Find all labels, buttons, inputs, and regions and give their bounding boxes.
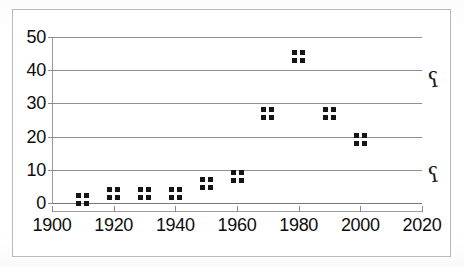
- gridline-y-0: [52, 203, 422, 204]
- y-tick-label-40: 40: [27, 61, 46, 79]
- x-tick-label-1960: 1960: [207, 216, 267, 234]
- data-point-marker: [169, 187, 182, 200]
- x-tick-2000: [360, 206, 361, 212]
- marker-cell: [146, 195, 151, 200]
- y-tick-label-50: 50: [27, 28, 46, 46]
- gridline-y-30: [52, 103, 422, 104]
- y-tick-label-10: 10: [27, 161, 46, 179]
- gridline-y-40: [52, 70, 422, 71]
- marker-cell: [115, 195, 120, 200]
- data-point-marker: [231, 170, 244, 183]
- plot-area: [52, 37, 422, 203]
- data-point-marker: [200, 177, 213, 190]
- gridline-y-50: [52, 37, 422, 38]
- marker-cell: [300, 58, 305, 63]
- screenshot-root: 01020304050 1900192019401960198020002020…: [0, 0, 464, 267]
- data-point-marker: [76, 193, 89, 206]
- x-tick-2020: [422, 206, 423, 212]
- data-point-marker: [323, 107, 336, 120]
- marker-cell: [331, 115, 336, 120]
- data-point-marker: [138, 187, 151, 200]
- data-point-marker: [292, 50, 305, 63]
- marker-cell: [239, 178, 244, 183]
- y-tick-label-20: 20: [27, 128, 46, 146]
- y-tick-30: [48, 103, 53, 104]
- y-tick-0: [48, 203, 53, 204]
- x-tick-1940: [175, 206, 176, 212]
- marker-cell: [269, 115, 274, 120]
- data-point-marker: [107, 187, 120, 200]
- x-axis-tick-labels: 1900192019401960198020002020: [0, 216, 464, 242]
- y-tick-40: [48, 70, 53, 71]
- x-tick-label-1920: 1920: [84, 216, 144, 234]
- x-tick-label-2000: 2000: [330, 216, 390, 234]
- x-tick-1920: [114, 206, 115, 212]
- marker-cell: [208, 185, 213, 190]
- data-point-marker: [261, 107, 274, 120]
- y-tick-label-30: 30: [27, 94, 46, 112]
- x-tick-label-2020: 2020: [392, 216, 452, 234]
- marker-cell: [84, 201, 89, 206]
- x-tick-1900: [52, 206, 53, 212]
- y-tick-20: [48, 137, 53, 138]
- marker-cell: [362, 141, 367, 146]
- y-tick-50: [48, 37, 53, 38]
- x-tick-1980: [299, 206, 300, 212]
- data-point-marker: [354, 133, 367, 146]
- x-tick-label-1940: 1940: [145, 216, 205, 234]
- x-tick-label-1900: 1900: [22, 216, 82, 234]
- x-tick-label-1980: 1980: [269, 216, 329, 234]
- marker-cell: [177, 195, 182, 200]
- x-tick-1960: [237, 206, 238, 212]
- y-tick-10: [48, 170, 53, 171]
- y-tick-label-0: 0: [36, 194, 46, 212]
